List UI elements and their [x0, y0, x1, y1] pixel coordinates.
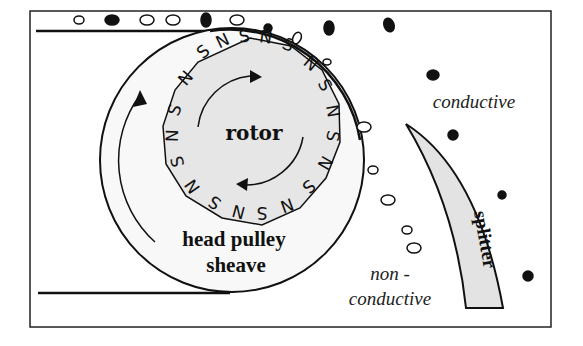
conductive-particle	[523, 271, 533, 281]
conductive-particle	[105, 15, 119, 25]
non-conductive-particle	[140, 15, 154, 25]
non-conductive-particle	[368, 166, 378, 174]
eddy-current-separator-diagram: rotor S N S N S N S N S N S N S N S N S …	[0, 0, 583, 346]
non-conductive-particle	[407, 243, 421, 253]
conductive-particle	[427, 70, 439, 80]
non-conductive-particle	[230, 15, 244, 25]
conductive-particle	[264, 24, 272, 32]
conductive-label: conductive	[433, 91, 515, 112]
pole-label: S	[257, 203, 268, 223]
non-conductive-particle	[357, 122, 371, 132]
conductive-particle	[324, 21, 334, 35]
sheave-label: sheave	[206, 253, 266, 277]
pole-label: N	[162, 129, 182, 142]
non-conductive-particle	[402, 226, 412, 234]
conductive-particle	[201, 13, 211, 27]
non-conductive-particle	[166, 15, 180, 25]
non-conductive-particle	[74, 16, 84, 24]
non-conductive-particle	[381, 195, 395, 205]
non-conductive-particle	[323, 59, 331, 65]
rotor-label: rotor	[226, 121, 283, 145]
conductive-particle	[498, 191, 506, 199]
non-conductive-label-line1: non -	[370, 263, 410, 284]
non-conductive-label-line2: conductive	[349, 288, 431, 309]
conductive-particle	[448, 130, 458, 140]
head-pulley-label: head pulley	[182, 227, 286, 251]
